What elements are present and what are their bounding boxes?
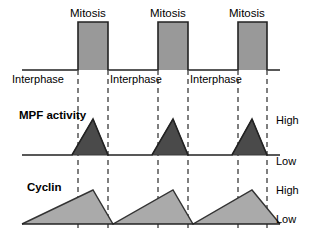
mpf-activity-label: MPF activity: [19, 110, 86, 122]
mitosis-pulse-3: [238, 22, 267, 70]
cyclin-area-fill: [22, 190, 280, 224]
mitosis-label-3: Mitosis: [229, 8, 265, 20]
mitosis-label-1: Mitosis: [70, 8, 106, 20]
mitosis-pulse-2: [158, 22, 188, 70]
mpf-low-label: Low: [276, 156, 296, 167]
mpf-high-label: High: [276, 115, 299, 126]
cyclin-label: Cyclin: [27, 182, 62, 194]
interphase-label-2: Interphase: [110, 74, 162, 85]
mitosis-label-2: Mitosis: [150, 8, 186, 20]
mitosis-block-fill: [78, 22, 108, 70]
mitosis-block-fill: [158, 22, 188, 70]
mpf-activity-track: [22, 119, 280, 155]
interphase-label-1: Interphase: [12, 74, 64, 85]
mitosis-interphase-track: [22, 22, 280, 70]
cyclin-track: [22, 190, 280, 224]
interphase-label-3: Interphase: [190, 74, 242, 85]
cell-cycle-diagram: Mitosis Mitosis Mitosis Interphase Inter…: [0, 0, 312, 241]
mitosis-pulse-1: [78, 22, 108, 70]
cyclin-low-label: Low: [276, 214, 296, 225]
mitosis-block-fill: [238, 22, 267, 70]
cyclin-high-label: High: [276, 185, 299, 196]
